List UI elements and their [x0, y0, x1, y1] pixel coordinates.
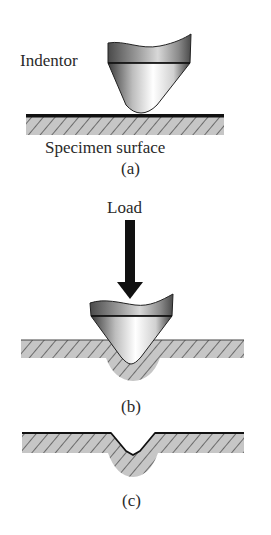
diagram-canvas: [0, 0, 271, 535]
caption-c: (c): [122, 492, 141, 509]
caption-b: (b): [121, 398, 141, 415]
indentor-a: [108, 34, 191, 113]
panel-b: [21, 220, 244, 381]
caption-a: (a): [121, 160, 140, 177]
specimen-surface-label: Specimen surface: [45, 139, 165, 156]
specimen-c-indented: [22, 433, 244, 477]
indentor-label: Indentor: [20, 52, 78, 69]
panel-c: [22, 433, 244, 477]
hardness-test-diagram: Indentor Specimen surface (a) Load (b) (…: [0, 0, 271, 535]
load-label: Load: [107, 199, 142, 216]
panel-a: [26, 34, 224, 135]
specimen-a: [26, 114, 224, 135]
load-arrow-icon: [117, 220, 143, 299]
